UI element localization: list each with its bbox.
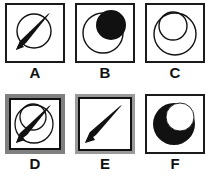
- panel-f-label: F: [140, 155, 210, 173]
- panel-f-frame: [145, 94, 205, 154]
- panel-f-artwork: [147, 96, 203, 152]
- panel-b-label: B: [70, 64, 140, 82]
- panel-b: B: [70, 0, 140, 91]
- filled-black-circle-icon: [96, 10, 126, 40]
- panel-d-label: D: [0, 155, 70, 173]
- figure-sheet: A B C D: [0, 0, 215, 183]
- panel-e-artwork: [78, 97, 132, 151]
- panel-a: A: [0, 0, 70, 91]
- panel-a-label: A: [0, 64, 70, 82]
- panel-e: E: [70, 91, 140, 182]
- panel-e-frame: [75, 94, 135, 154]
- panel-b-frame: [75, 3, 135, 63]
- panel-c: C: [140, 0, 210, 91]
- panel-a-frame: [5, 3, 65, 63]
- panel-d-frame: [5, 94, 65, 154]
- panel-b-artwork: [77, 5, 133, 61]
- panel-a-artwork: [7, 5, 63, 61]
- panel-e-label: E: [70, 155, 140, 173]
- panel-c-artwork: [147, 5, 203, 61]
- panel-c-frame: [145, 3, 205, 63]
- panel-c-label: C: [140, 64, 210, 82]
- circle-outline-small-icon: [159, 12, 187, 40]
- panel-d: D: [0, 91, 70, 182]
- panel-f: F: [140, 91, 210, 182]
- panel-d-artwork: [9, 98, 61, 150]
